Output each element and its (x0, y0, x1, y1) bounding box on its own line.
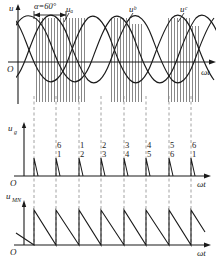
pulse-label-2-bottom: 3 (102, 149, 106, 159)
panel1-y-label: u (9, 3, 14, 13)
panel1-x-label: ωt (201, 67, 210, 77)
pulse-label-4-bottom: 5 (147, 149, 151, 159)
gate-pulse-spikes (34, 158, 195, 176)
panel1-x-arrow (209, 59, 216, 64)
label-ub: uᵇ (129, 4, 137, 14)
panel2-y-sub: g (14, 129, 17, 135)
panel2-y-label: u (8, 123, 13, 133)
panel3-y-label: u (6, 191, 11, 201)
waveform-figure: α=60° uₐ uᵇ uᶜ u O ωt (0, 0, 223, 257)
panel-phase-voltages: α=60° uₐ uᵇ uᶜ u O ωt (6, 1, 218, 104)
panel1-origin-label: O (7, 64, 14, 74)
pulse-label-5-bottom: 6 (170, 149, 174, 159)
alpha-label: α=60° (34, 1, 57, 11)
figure-svg: α=60° uₐ uᵇ uᶜ u O ωt (0, 0, 223, 257)
panel3-y-arrow (22, 200, 26, 207)
panel3-origin-label: O (10, 247, 17, 257)
panel3-x-label: ωt (197, 248, 206, 257)
alpha-arrow-left (34, 13, 40, 18)
pulse-label-6-bottom: 1 (192, 149, 196, 159)
conduction-hatch-bands (34, 18, 200, 102)
panel-output-voltage: u MN O ωt (6, 191, 211, 257)
pulse-label-1-bottom: 2 (80, 149, 84, 159)
panel2-x-label: ωt (197, 179, 206, 189)
panel3-y-sub: MN (11, 197, 22, 203)
label-uc: uᶜ (180, 4, 188, 14)
panel3-x-arrow (204, 243, 211, 248)
panel2-y-arrow (22, 122, 26, 128)
pulse-pair-labels: 6 1 1 2 2 3 3 4 4 5 5 6 6 1 (57, 140, 196, 159)
panel1-y-arrow (16, 4, 21, 10)
panel-gate-pulses: 6 1 1 2 2 3 3 4 4 5 5 6 6 1 u g O ωt (8, 122, 211, 189)
commutation-dashed-lines (34, 96, 191, 245)
panel2-x-arrow (204, 174, 211, 179)
label-ua: uₐ (66, 4, 74, 14)
pulse-label-3-bottom: 4 (125, 149, 130, 159)
pulse-label-0-bottom: 1 (57, 149, 61, 159)
panel2-origin-label: O (10, 178, 17, 188)
sawtooth-waveform (16, 210, 205, 245)
